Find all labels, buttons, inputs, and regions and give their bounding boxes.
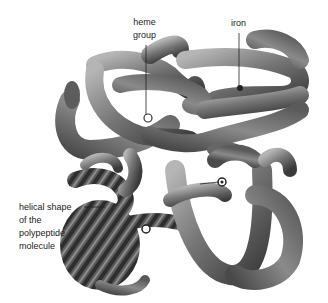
upper-subunits bbox=[64, 39, 300, 158]
helical-shape-label: helical shape of the polypeptide molecul… bbox=[19, 201, 72, 253]
heme-group-label: heme group bbox=[133, 16, 156, 42]
lower-right-subunits bbox=[170, 153, 293, 281]
iron-label: iron bbox=[231, 17, 246, 30]
hemoglobin-diagram bbox=[0, 0, 328, 303]
